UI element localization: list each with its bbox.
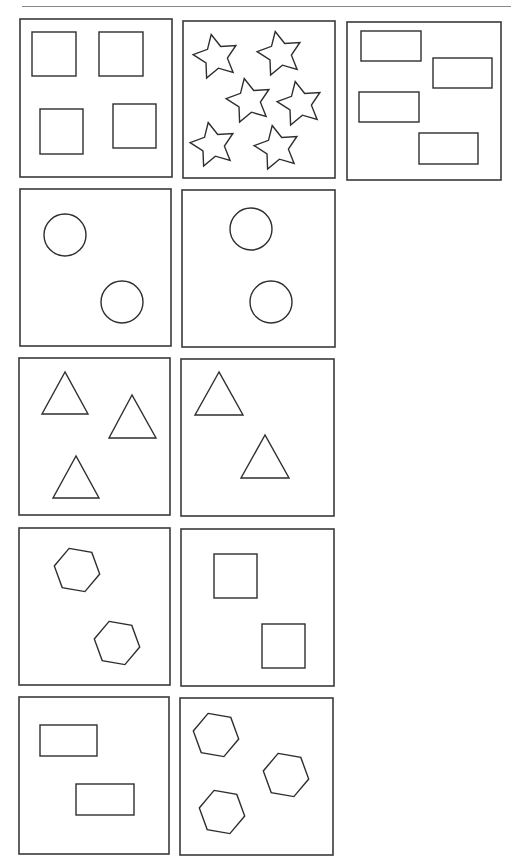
square-shape: [113, 104, 156, 148]
panel-rectangles-2: [19, 697, 169, 854]
circle-shape: [250, 281, 292, 323]
square-shape: [214, 554, 257, 598]
worksheet-canvas: [0, 0, 517, 868]
panel-triangles-3: [19, 358, 170, 515]
panel-frame: [19, 528, 170, 685]
panel-stars-6: [183, 21, 335, 178]
square-shape: [40, 109, 83, 154]
circle-shape: [44, 214, 86, 256]
rectangle-shape: [359, 92, 419, 122]
circle-shape: [230, 208, 272, 250]
panel-frame: [19, 697, 169, 854]
panel-triangles-2: [181, 359, 334, 516]
panel-hexagons-3: [180, 698, 333, 855]
panel-hexagons-2: [19, 528, 170, 685]
rectangle-shape: [40, 725, 97, 756]
square-shape: [262, 624, 305, 668]
rectangle-shape: [76, 784, 134, 815]
panel-squares-2: [181, 529, 334, 686]
square-shape: [32, 32, 76, 76]
panel-rectangles-4: [347, 22, 501, 180]
square-shape: [99, 32, 143, 76]
rectangle-shape: [419, 133, 478, 164]
panel-circles-2b: [182, 190, 335, 347]
rectangle-shape: [361, 31, 421, 61]
panel-frame: [181, 529, 334, 686]
panel-circles-2a: [20, 189, 171, 346]
panel-frame: [20, 189, 171, 346]
panel-frame: [181, 359, 334, 516]
rectangle-shape: [433, 58, 492, 88]
circle-shape: [101, 281, 143, 323]
shape-panels-grid: [19, 19, 501, 855]
panel-squares-4: [20, 19, 172, 177]
